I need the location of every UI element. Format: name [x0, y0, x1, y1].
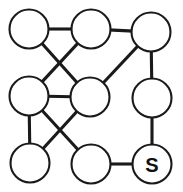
graph-node-n3[interactable]: [132, 13, 171, 52]
graph-edge-n2-n3: [108, 30, 133, 31]
graph-node-n8[interactable]: [72, 145, 111, 184]
graph-edge-n3-n5: [102, 45, 139, 84]
graph-node-n9[interactable]: S: [133, 145, 172, 184]
node-circle-n7[interactable]: [11, 144, 50, 183]
node-circle-n1[interactable]: [10, 10, 49, 49]
graph-node-n4[interactable]: [10, 77, 49, 116]
graph-diagram-canvas: S: [0, 0, 183, 192]
nodes-layer: S: [10, 10, 172, 184]
graph-svg: S: [0, 0, 183, 192]
node-circle-n4[interactable]: [10, 77, 49, 116]
graph-node-n6[interactable]: [133, 79, 172, 118]
graph-node-n7[interactable]: [11, 144, 50, 183]
node-label-n9: S: [145, 154, 158, 176]
node-circle-n2[interactable]: [72, 10, 111, 49]
node-circle-n5[interactable]: [71, 78, 110, 117]
node-circle-n8[interactable]: [72, 145, 111, 184]
node-circle-n3[interactable]: [132, 13, 171, 52]
graph-node-n1[interactable]: [10, 10, 49, 49]
graph-node-n2[interactable]: [72, 10, 111, 49]
graph-node-n5[interactable]: [71, 78, 110, 117]
node-circle-n6[interactable]: [133, 79, 172, 118]
